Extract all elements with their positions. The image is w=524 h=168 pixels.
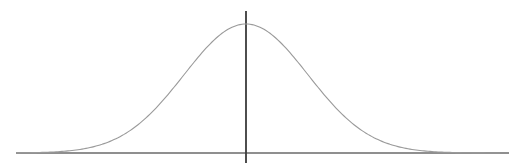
bell-curve [16,24,500,153]
normal-distribution-diagram [0,0,524,168]
